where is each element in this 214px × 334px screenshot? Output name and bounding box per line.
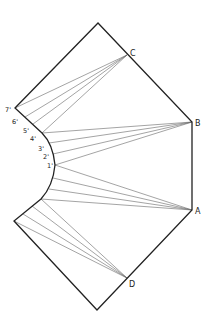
construction-lines-b xyxy=(42,122,192,165)
label-b: B xyxy=(195,119,201,128)
label-6: 6' xyxy=(12,118,18,126)
label-d: D xyxy=(129,280,135,289)
construction-lines-c xyxy=(15,55,127,133)
label-a: A xyxy=(195,207,201,216)
label-3: 3' xyxy=(38,145,44,153)
label-5: 5' xyxy=(23,127,29,135)
label-7: 7' xyxy=(5,106,11,114)
pattern-development-diagram: C B A D 7' 6' 5' 4' 3' 2' 1' xyxy=(0,0,214,334)
construction-lines-a xyxy=(41,165,192,210)
label-c: C xyxy=(130,49,136,58)
label-4: 4' xyxy=(30,135,36,143)
label-1: 1' xyxy=(47,162,53,170)
label-2: 2' xyxy=(43,153,49,161)
